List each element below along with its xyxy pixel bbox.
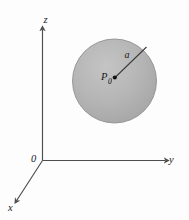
figure-container: z y x 0 a P 0 [0,0,189,220]
y-axis-label: y [168,154,174,165]
sphere-body [73,39,157,123]
sphere-radius-label: a [125,49,130,60]
origin-label: 0 [31,153,37,164]
x-axis-line [17,161,43,201]
sphere-center-dot [113,75,117,79]
x-axis-label: x [7,202,13,213]
z-axis-label: z [43,14,48,25]
coordinate-sphere-diagram: z y x 0 a P 0 [0,0,189,220]
sphere-center-label: P [100,71,108,82]
x-axis [17,161,43,201]
sphere-center-label-subscript: 0 [108,77,112,86]
sphere [73,39,157,123]
